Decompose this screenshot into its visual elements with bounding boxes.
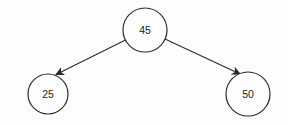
tree-node-right-child: 50 — [226, 72, 270, 116]
node-label-right-child: 50 — [242, 88, 254, 100]
tree-node-root: 45 — [123, 8, 167, 52]
tree-svg: 452550 — [0, 0, 288, 125]
node-label-root: 45 — [139, 24, 151, 36]
node-label-left-child: 25 — [42, 88, 54, 100]
binary-tree-diagram: 452550 — [0, 0, 288, 125]
edge-root-to-left-child — [56, 40, 126, 75]
edge-root-to-right-child — [165, 39, 240, 74]
tree-node-left-child: 25 — [28, 74, 68, 114]
